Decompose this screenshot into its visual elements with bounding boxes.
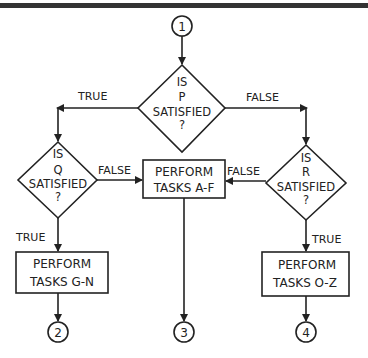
svg-text:TASKS O-Z: TASKS O-Z [272,276,337,290]
label-q-true: TRUE [15,231,45,244]
top-rule [0,3,368,8]
connector-3: 3 [174,322,194,342]
start-connector: 1 [172,16,192,36]
svg-text:Q: Q [53,163,62,177]
process-tasks-a-f: PERFORM TASKS A-F [143,160,225,198]
svg-text:4: 4 [302,326,310,340]
connector-label: 1 [178,20,186,34]
decision-q: IS Q SATISFIED ? [18,142,97,218]
label-q-false: FALSE [98,164,131,177]
decision-r: IS R SATISFIED ? [266,145,346,220]
flowchart: 1 IS P SATISFIED ? TRUE FALSE IS Q SATIS… [0,0,368,358]
label-r-true: TRUE [311,233,341,246]
svg-text:SATISFIED: SATISFIED [277,180,335,194]
decision-p: IS P SATISFIED ? [138,65,225,152]
svg-text:SATISFIED: SATISFIED [29,177,87,191]
svg-text:SATISFIED: SATISFIED [153,105,211,119]
label-p-true: TRUE [77,90,107,103]
process-tasks-o-z: PERFORM TASKS O-Z [262,252,349,296]
svg-text:?: ? [303,193,309,207]
svg-text:IS: IS [177,75,188,89]
svg-text:TASKS G-N: TASKS G-N [29,275,94,289]
svg-text:3: 3 [180,326,188,340]
svg-text:?: ? [55,190,61,204]
connector-4: 4 [296,322,316,342]
edge-p-true [58,108,138,141]
label-p-false: FALSE [246,91,279,104]
svg-text:2: 2 [54,326,62,340]
svg-text:PERFORM: PERFORM [33,257,91,271]
edge-p-false [225,108,306,144]
svg-text:TASKS A-F: TASKS A-F [153,181,215,195]
svg-text:R: R [302,165,310,179]
svg-text:P: P [179,90,186,104]
label-r-false: FALSE [227,165,260,178]
svg-text:PERFORM: PERFORM [155,165,213,179]
flowchart-canvas: 1 IS P SATISFIED ? TRUE FALSE IS Q SATIS… [0,0,368,358]
process-tasks-g-n: PERFORM TASKS G-N [16,252,108,293]
svg-text:IS: IS [301,151,312,165]
svg-text:?: ? [179,118,185,132]
svg-text:IS: IS [53,147,64,161]
connector-2: 2 [48,322,68,342]
svg-text:PERFORM: PERFORM [278,258,336,272]
